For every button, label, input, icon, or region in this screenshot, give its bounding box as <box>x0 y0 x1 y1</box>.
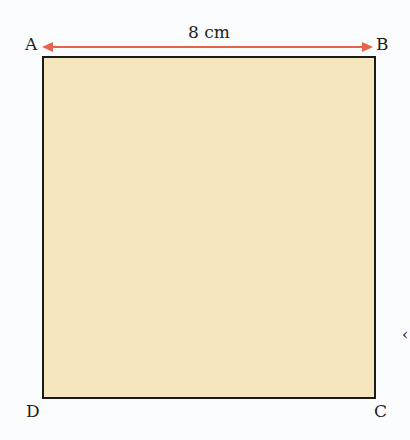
square-abcd <box>42 56 376 399</box>
partial-arrow-icon: ‹ <box>402 325 408 344</box>
vertex-label-a: A <box>25 36 37 53</box>
vertex-label-c: C <box>374 403 387 420</box>
vertex-label-b: B <box>376 36 389 53</box>
measurement-label: 8 cm <box>188 24 230 41</box>
vertex-label-d: D <box>26 403 40 420</box>
